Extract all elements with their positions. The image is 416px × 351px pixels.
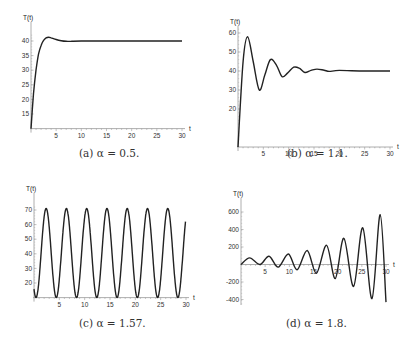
y-axis-label: T(t): [230, 18, 240, 26]
y-tick-label: 25: [22, 81, 30, 88]
x-tick-label: 5: [262, 150, 266, 157]
y-tick-label: 600: [228, 208, 239, 215]
x-tick-label: 15: [106, 301, 114, 308]
x-tick-label: 30: [382, 268, 390, 275]
y-tick-label: 20: [229, 105, 237, 112]
x-axis-label: t: [193, 294, 195, 301]
y-tick-label: 60: [25, 221, 33, 228]
y-tick-label: 40: [229, 67, 237, 74]
data-curve: [34, 209, 186, 298]
y-tick-label: -200: [226, 278, 239, 285]
x-tick-label: 15: [103, 132, 111, 139]
y-tick-label: 200: [228, 243, 239, 250]
x-tick-label: 25: [153, 132, 161, 139]
y-axis-label: T(t): [26, 185, 36, 193]
x-tick-label: 25: [361, 150, 369, 157]
y-tick-label: 400: [228, 226, 239, 233]
x-tick-label: 10: [78, 132, 86, 139]
x-axis-label: t: [397, 143, 399, 150]
y-tick-label: 20: [22, 96, 30, 103]
y-tick-label: 20: [25, 279, 33, 286]
x-axis-label: t: [393, 261, 395, 268]
y-tick-label: 40: [25, 250, 33, 257]
y-tick-label: 50: [25, 235, 33, 242]
figure-plots: 51015202530152025303540T(t)t510152025302…: [0, 0, 416, 351]
x-tick-label: 10: [286, 268, 294, 275]
data-curve: [241, 215, 386, 303]
x-tick-label: 5: [263, 268, 267, 275]
y-tick-label: 30: [229, 86, 237, 93]
y-tick-label: 35: [22, 52, 30, 59]
x-axis-label: t: [189, 125, 191, 132]
x-tick-label: 10: [81, 301, 89, 308]
data-curve: [31, 37, 182, 128]
caption-d: (d) α = 1.8.: [286, 317, 347, 329]
y-tick-label: 30: [25, 265, 33, 272]
x-tick-label: 30: [386, 150, 394, 157]
x-tick-label: 30: [182, 301, 190, 308]
data-curve: [238, 37, 390, 147]
y-tick-label: 40: [22, 37, 30, 44]
x-tick-label: 25: [358, 268, 366, 275]
caption-c: (c) α = 1.57.: [79, 317, 146, 329]
x-tick-label: 25: [157, 301, 165, 308]
y-tick-label: 30: [22, 66, 30, 73]
y-tick-label: 50: [229, 48, 237, 55]
y-tick-label: 60: [229, 29, 237, 36]
x-tick-label: 30: [178, 132, 186, 139]
y-tick-label: 70: [25, 206, 33, 213]
caption-a: (a) α = 0.5.: [79, 147, 139, 159]
x-tick-label: 5: [58, 301, 62, 308]
y-tick-label: 15: [22, 110, 30, 117]
y-axis-label: T(t): [23, 14, 33, 22]
caption-b: (b) α = 1.1.: [287, 147, 348, 159]
x-tick-label: 5: [54, 132, 58, 139]
x-tick-label: 20: [132, 301, 140, 308]
y-tick-label: -400: [226, 296, 239, 303]
x-tick-label: 20: [128, 132, 136, 139]
y-axis-label: T(t): [233, 190, 243, 198]
